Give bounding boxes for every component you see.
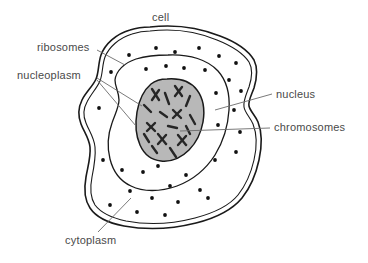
ribosome-dot <box>216 123 220 127</box>
ribosome-dot <box>176 200 180 204</box>
ribosome-dot <box>109 70 113 74</box>
ribosome-dot <box>163 213 167 217</box>
ribosome-dot <box>227 78 231 82</box>
ribosome-dot <box>184 173 188 177</box>
ribosome-dot <box>128 189 132 193</box>
ribosome-dot <box>197 46 201 50</box>
ribosome-dot <box>154 46 158 50</box>
ribosome-dot <box>238 130 242 134</box>
ribosome-dot <box>101 158 105 162</box>
ribosome-dot <box>120 168 124 172</box>
ribosome-dot <box>168 184 172 188</box>
ribosome-dot <box>141 170 145 174</box>
ribosome-dot <box>97 106 101 110</box>
label-nucleus: nucleus <box>276 88 315 100</box>
ribosome-dot <box>164 64 168 68</box>
ribosome-dot <box>217 54 221 58</box>
ribosome-dot <box>150 196 154 200</box>
ribosome-dot <box>127 53 131 57</box>
ribosome-dot <box>206 196 210 200</box>
ribosome-dot <box>198 188 202 192</box>
label-cytoplasm: cytoplasm <box>65 234 116 246</box>
ribosome-dot <box>144 67 148 71</box>
ribosome-dot <box>182 66 186 70</box>
cell-diagram: cell ribosomes nucleoplasm nucleus chrom… <box>0 0 368 263</box>
ribosome-dot <box>232 108 236 112</box>
ribosome-dot <box>203 68 207 72</box>
ribosome-dot <box>234 150 238 154</box>
label-cell: cell <box>152 11 169 23</box>
ribosome-dot <box>135 210 139 214</box>
ribosome-dot <box>239 89 243 93</box>
ribosome-dot <box>108 203 112 207</box>
ribosome-dot <box>173 50 177 54</box>
ribosome-dot <box>234 61 238 65</box>
label-nucleoplasm: nucleoplasm <box>17 69 81 81</box>
label-chromosomes: chromosomes <box>274 121 345 133</box>
ribosome-dot <box>214 91 218 95</box>
ribosome-dot <box>156 164 160 168</box>
ribosome-dot <box>213 158 217 162</box>
label-ribosomes: ribosomes <box>37 41 90 53</box>
